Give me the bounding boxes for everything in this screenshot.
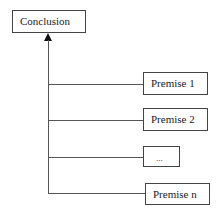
premise-box-ellipsis: ... — [143, 146, 180, 167]
conclusion-box: Conclusion — [12, 10, 86, 33]
connector-premise-2 — [48, 120, 143, 121]
connector-premise-ellipsis — [48, 157, 143, 158]
connector-premise-1 — [48, 84, 143, 85]
connector-premise-n — [48, 193, 145, 194]
premise-box-2: Premise 2 — [143, 108, 208, 131]
premise-label: ... — [156, 154, 163, 163]
conclusion-label: Conclusion — [20, 16, 70, 27]
premise-label: Premise 2 — [151, 114, 195, 125]
vertical-connector — [48, 40, 49, 194]
premise-label: Premise n — [153, 189, 197, 200]
premise-box-1: Premise 1 — [143, 72, 208, 95]
premise-label: Premise 1 — [151, 78, 195, 89]
premise-box-n: Premise n — [145, 183, 210, 205]
